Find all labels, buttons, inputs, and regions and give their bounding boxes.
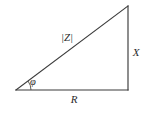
label-horizontal-resistance: R [70,93,78,105]
label-hypotenuse: |Z| [61,31,73,43]
impedance-triangle-diagram: |Z| X R φ [0,0,150,113]
triangle-canvas: |Z| X R φ [0,0,150,113]
label-vertical-reactance: X [132,46,141,58]
label-phase-angle: φ [30,76,36,87]
